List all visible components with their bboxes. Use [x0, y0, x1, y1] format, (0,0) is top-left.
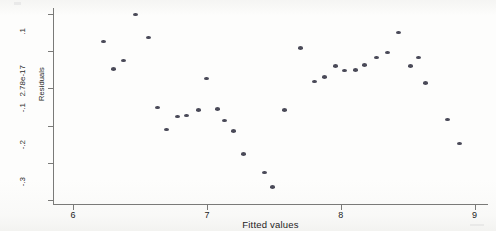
data-point — [333, 64, 338, 67]
scatter-plot-screenshot: .2.12.78e-17-.1-.2-.3 6789 Residuals Fit… — [0, 0, 496, 231]
data-point — [204, 77, 209, 80]
x-axis-line — [53, 204, 488, 205]
data-point — [121, 59, 126, 62]
data-point — [222, 119, 227, 122]
data-point — [408, 64, 413, 67]
data-point — [282, 108, 287, 111]
data-point — [396, 31, 401, 34]
data-point — [175, 115, 180, 118]
data-point — [312, 80, 317, 83]
data-point — [342, 69, 347, 72]
data-point — [146, 36, 151, 39]
data-point — [457, 142, 462, 145]
data-point — [111, 67, 116, 70]
y-axis-tick-label-text: -.3 — [18, 177, 28, 223]
y-axis-tick-label: -.1 — [0, 121, 46, 131]
data-point — [423, 81, 428, 84]
data-point — [385, 51, 390, 54]
data-point — [322, 75, 327, 78]
y-axis-tick-label: -.3 — [0, 195, 46, 205]
data-point — [374, 56, 379, 59]
data-point — [231, 129, 236, 132]
data-point — [101, 40, 106, 43]
y-axis-tick-label: .2 — [0, 9, 46, 19]
data-point — [270, 185, 275, 188]
data-point — [215, 107, 220, 110]
data-point — [416, 56, 421, 59]
data-point — [445, 118, 450, 121]
y-axis-tick-label: -.2 — [0, 158, 46, 168]
data-point — [196, 108, 201, 111]
data-point — [353, 68, 358, 71]
x-axis-title: Fitted values — [53, 219, 488, 230]
data-point — [262, 171, 267, 174]
data-point — [164, 128, 169, 131]
data-point — [133, 13, 138, 16]
data-point — [155, 106, 160, 109]
data-point — [184, 114, 189, 117]
plot-data-area — [53, 8, 488, 204]
y-axis-title: Residuals — [36, 54, 48, 114]
data-point — [362, 63, 367, 66]
data-point — [241, 152, 246, 155]
data-point — [298, 46, 303, 49]
